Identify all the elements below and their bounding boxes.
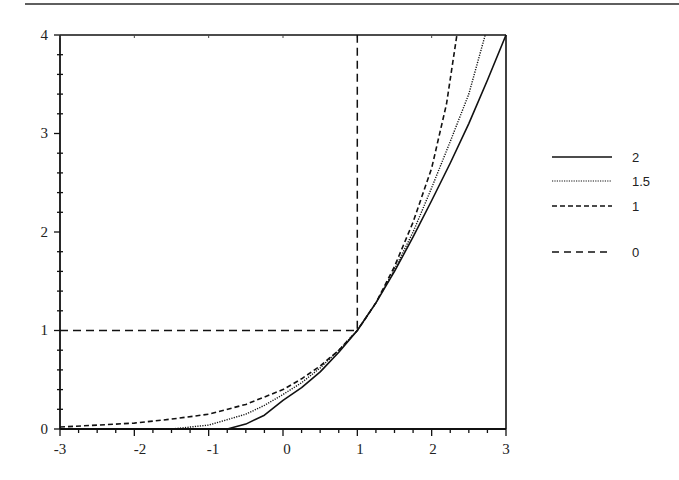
series-line-2 bbox=[60, 35, 506, 429]
legend-label-1: 1 bbox=[632, 199, 639, 214]
series-line-1 bbox=[60, 35, 457, 427]
x-tick-labels: -3 -2 -1 0 1 2 3 bbox=[54, 441, 510, 457]
y-tick-label-0: 0 bbox=[41, 421, 49, 437]
x-ticks bbox=[60, 35, 506, 436]
x-tick-label-3: 3 bbox=[502, 441, 510, 457]
x-tick-label-1: 1 bbox=[356, 441, 364, 457]
y-tick-label-3: 3 bbox=[41, 125, 49, 141]
x-tick-label-2: 2 bbox=[429, 441, 437, 457]
legend-label-1-5: 1.5 bbox=[632, 174, 650, 189]
series-line-1-5 bbox=[60, 35, 485, 429]
x-tick-label-neg3: -3 bbox=[54, 441, 67, 457]
legend-label-0: 0 bbox=[632, 245, 639, 260]
x-tick-label-0: 0 bbox=[283, 441, 291, 457]
plot-frame bbox=[60, 35, 506, 429]
y-tick-labels: 4 3 2 1 0 bbox=[41, 27, 49, 437]
series-line-0 bbox=[60, 35, 357, 331]
y-ticks bbox=[54, 35, 63, 429]
y-tick-label-2: 2 bbox=[41, 224, 49, 240]
y-tick-label-1: 1 bbox=[41, 322, 49, 338]
y-tick-label-4: 4 bbox=[41, 27, 49, 43]
legend: 2 1.5 1 0 bbox=[552, 150, 650, 260]
legend-label-2: 2 bbox=[632, 150, 639, 165]
series-layer bbox=[60, 35, 506, 429]
chart: 4 3 2 1 0 -3 -2 -1 0 1 2 3 2 1.5 1 0 bbox=[0, 0, 679, 480]
x-tick-label-neg2: -2 bbox=[134, 441, 147, 457]
x-tick-label-neg1: -1 bbox=[207, 441, 220, 457]
